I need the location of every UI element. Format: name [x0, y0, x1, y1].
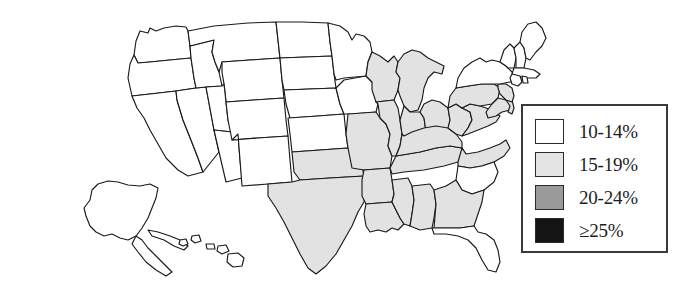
figure-root: 10-14% 15-19% 20-24% ≥25% [0, 0, 687, 299]
legend-item: ≥25% [535, 214, 666, 247]
state-ND [276, 22, 332, 58]
legend-label: 20-24% [579, 188, 638, 207]
state-NC [458, 140, 510, 168]
state-SC [456, 162, 498, 194]
legend-swatch [535, 185, 564, 210]
state-AL [410, 184, 436, 230]
state-HI-bigisland [227, 253, 244, 267]
state-KS [288, 114, 348, 152]
state-HI-oahu [191, 235, 201, 243]
state-HI-kauai [179, 239, 188, 246]
state-NM [232, 134, 292, 186]
legend-swatch [535, 152, 564, 177]
legend-label: 10-14% [579, 122, 638, 141]
state-AK-panhandle [132, 236, 172, 276]
legend-item: 20-24% [535, 181, 666, 214]
state-FL [432, 226, 500, 272]
legend-swatch [535, 119, 564, 144]
legend-label: 15-19% [579, 155, 638, 174]
legend-item: 10-14% [535, 115, 666, 148]
state-AR [362, 168, 394, 204]
state-RI [522, 76, 528, 83]
state-CT [510, 74, 522, 86]
state-AK [84, 181, 158, 240]
state-CO [226, 98, 288, 140]
legend-item: 15-19% [535, 148, 666, 181]
state-HI-molokai [206, 244, 215, 249]
state-WY [222, 58, 284, 102]
map-legend: 10-14% 15-19% 20-24% ≥25% [521, 104, 668, 253]
state-TX [268, 176, 366, 274]
state-NE [284, 88, 344, 118]
state-HI-maui [217, 245, 229, 254]
legend-swatch [535, 218, 564, 243]
state-SD [280, 56, 336, 90]
legend-label: ≥25% [579, 221, 623, 240]
state-WA [134, 26, 191, 63]
state-MN [328, 23, 372, 80]
